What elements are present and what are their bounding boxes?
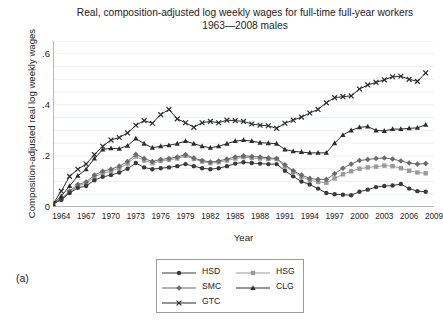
series-hsg — [53, 154, 428, 206]
legend-item-gtc[interactable]: GTC — [161, 294, 220, 308]
x-axis-tick-label: 1967 — [77, 212, 95, 221]
legend-item-hsd[interactable]: HSD — [161, 264, 220, 278]
marker-square — [366, 165, 370, 169]
x-axis-tick-label: 2000 — [350, 212, 368, 221]
data-marker — [125, 131, 130, 136]
data-marker — [84, 162, 89, 167]
data-marker — [423, 161, 429, 167]
marker-circle — [407, 186, 411, 190]
marker-square — [399, 166, 403, 170]
data-marker — [133, 136, 138, 141]
data-marker — [76, 186, 80, 190]
data-marker — [340, 165, 346, 171]
data-marker — [390, 156, 396, 162]
data-marker — [299, 115, 304, 120]
x-axis-tick-label: 2009 — [425, 212, 443, 221]
data-marker — [348, 161, 354, 167]
legend-item-clg[interactable]: CLG — [235, 279, 294, 293]
x-axis-tick-label: 1964 — [52, 212, 70, 221]
data-marker — [291, 118, 296, 123]
data-marker — [366, 187, 370, 191]
data-marker — [366, 165, 370, 169]
marker-circle — [258, 161, 262, 165]
data-marker — [158, 112, 163, 117]
marker-circle — [291, 174, 295, 178]
data-marker — [266, 162, 270, 166]
data-marker — [398, 158, 404, 164]
data-marker — [349, 193, 353, 197]
data-marker — [192, 164, 196, 168]
marker-square — [407, 169, 411, 173]
marker-circle — [134, 161, 138, 165]
data-marker — [424, 189, 428, 193]
x-axis-title: Year — [53, 232, 434, 243]
data-marker — [125, 166, 129, 170]
marker-triangle — [108, 145, 113, 150]
data-marker — [258, 161, 262, 165]
data-marker — [282, 147, 287, 152]
data-marker — [357, 189, 361, 193]
marker-circle — [100, 175, 104, 179]
data-marker — [316, 107, 321, 112]
marker-diamond — [398, 158, 404, 164]
marker-square — [357, 166, 361, 170]
marker-diamond — [415, 161, 421, 167]
marker-circle — [208, 167, 212, 171]
chart-title: Real, composition-adjusted log weekly wa… — [55, 6, 435, 32]
x-axis-tick-label: 2003 — [375, 212, 393, 221]
data-marker — [183, 162, 187, 166]
legend-label: GTC — [202, 296, 220, 306]
legend-item-hsg[interactable]: HSG — [235, 264, 295, 278]
marker-circle — [316, 186, 320, 190]
y-axis-tick-labels: 0.2.4.6 — [24, 41, 50, 207]
marker-diamond — [348, 161, 354, 167]
chart-legend: HSDSMCGTCHSGCLG — [156, 259, 304, 313]
marker-triangle — [183, 138, 188, 143]
marker-square — [349, 169, 353, 173]
marker-circle — [76, 186, 80, 190]
data-marker — [308, 182, 312, 186]
data-marker — [100, 175, 104, 179]
marker-circle — [374, 185, 378, 189]
marker-circle — [382, 184, 386, 188]
data-marker — [200, 166, 204, 170]
marker-diamond — [423, 161, 429, 167]
marker-circle — [250, 161, 254, 165]
data-marker — [357, 158, 363, 164]
data-marker — [382, 163, 386, 167]
legend-item-smc[interactable]: SMC — [161, 279, 221, 293]
legend-symbol-circle-icon — [161, 265, 197, 277]
data-marker — [399, 166, 403, 170]
marker-diamond — [390, 156, 396, 162]
data-marker — [67, 174, 72, 179]
data-marker — [142, 165, 146, 169]
marker-triangle — [340, 132, 345, 137]
data-marker — [406, 160, 412, 166]
marker-circle — [341, 193, 345, 197]
x-axis-tick-label: 1985 — [226, 212, 244, 221]
marker-circle — [241, 160, 245, 164]
series-line — [53, 154, 426, 204]
marker-diamond — [176, 285, 182, 291]
data-marker — [176, 285, 182, 291]
data-marker — [109, 173, 113, 177]
data-marker — [357, 166, 361, 170]
marker-square — [332, 176, 336, 180]
marker-circle — [150, 167, 154, 171]
x-axis-tick-label: 1991 — [276, 212, 294, 221]
legend-label: CLG — [276, 281, 294, 291]
marker-diamond — [365, 157, 371, 163]
marker-diamond — [406, 160, 412, 166]
marker-square — [374, 164, 378, 168]
data-marker — [291, 174, 295, 178]
marker-square — [341, 172, 345, 176]
series-line — [53, 125, 426, 204]
chart-canvas — [53, 41, 434, 207]
data-marker — [167, 165, 171, 169]
marker-square — [251, 271, 255, 275]
y-axis-tick-label: .4 — [28, 99, 50, 110]
marker-circle — [177, 271, 181, 275]
data-marker — [150, 167, 154, 171]
marker-square — [382, 163, 386, 167]
